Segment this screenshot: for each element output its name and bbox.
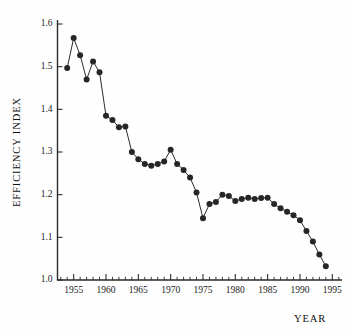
data-point <box>84 76 90 82</box>
y-axis-title: EFFICIENCY INDEX <box>11 97 22 207</box>
data-point <box>103 113 109 119</box>
data-point <box>187 175 193 181</box>
data-point <box>219 192 225 198</box>
y-tick-label: 1.6 <box>41 18 53 28</box>
data-point <box>148 163 154 169</box>
efficiency-index-line-chart: 1.01.11.21.31.41.51.6 195519601965197019… <box>0 0 354 333</box>
data-point <box>271 201 277 207</box>
x-tick-label: 1970 <box>161 285 180 295</box>
data-point <box>213 199 219 205</box>
data-point <box>206 201 212 207</box>
chart-axes <box>58 20 343 280</box>
data-point <box>258 195 264 201</box>
y-tick-label: 1.2 <box>41 189 53 199</box>
data-point <box>297 217 303 223</box>
data-point <box>226 193 232 199</box>
data-point <box>265 195 271 201</box>
data-point <box>135 156 141 162</box>
y-tick-label: 1.4 <box>41 104 53 114</box>
x-tick-label: 1960 <box>96 285 115 295</box>
data-point <box>245 195 251 201</box>
y-tick-label: 1.1 <box>41 232 53 242</box>
data-point <box>122 123 128 129</box>
x-tick-label: 1955 <box>64 285 83 295</box>
y-axis-tick-labels: 1.01.11.21.31.41.51.6 <box>41 18 53 284</box>
data-point <box>174 161 180 167</box>
data-point <box>97 69 103 75</box>
x-tick-label: 1985 <box>258 285 277 295</box>
data-point <box>316 251 322 257</box>
data-point <box>181 167 187 173</box>
x-axis-title: YEAR <box>294 313 326 324</box>
data-point <box>71 35 77 41</box>
data-point <box>90 59 96 65</box>
x-tick-label: 1965 <box>129 285 148 295</box>
y-tick-label: 1.0 <box>41 274 53 284</box>
x-axis-tick-labels: 195519601965197019751980198519901995 <box>64 285 342 295</box>
data-point <box>161 158 167 164</box>
data-point <box>239 196 245 202</box>
data-point <box>109 117 115 123</box>
data-point <box>232 198 238 204</box>
x-tick-label: 1995 <box>323 285 342 295</box>
data-point <box>77 52 83 58</box>
data-point <box>64 65 70 71</box>
data-point <box>200 215 206 221</box>
data-point <box>252 196 258 202</box>
x-tick-label: 1980 <box>226 285 245 295</box>
y-tick-label: 1.5 <box>41 61 53 71</box>
data-point <box>284 209 290 215</box>
x-axis-ticks <box>61 274 339 280</box>
y-tick-label: 1.3 <box>41 146 53 156</box>
data-point <box>129 149 135 155</box>
data-point <box>168 147 174 153</box>
data-series-line <box>67 38 326 266</box>
data-point <box>278 205 284 211</box>
data-point <box>194 190 200 196</box>
data-point <box>142 161 148 167</box>
data-point <box>155 161 161 167</box>
data-point <box>116 124 122 130</box>
data-series-markers <box>64 35 329 269</box>
chart-figure: 1.01.11.21.31.41.51.6 195519601965197019… <box>0 0 354 333</box>
x-tick-label: 1975 <box>193 285 212 295</box>
data-point <box>291 212 297 218</box>
x-tick-label: 1990 <box>290 285 309 295</box>
data-point <box>323 263 329 269</box>
y-axis-ticks <box>58 24 63 280</box>
data-point <box>303 228 309 234</box>
data-point <box>310 239 316 245</box>
